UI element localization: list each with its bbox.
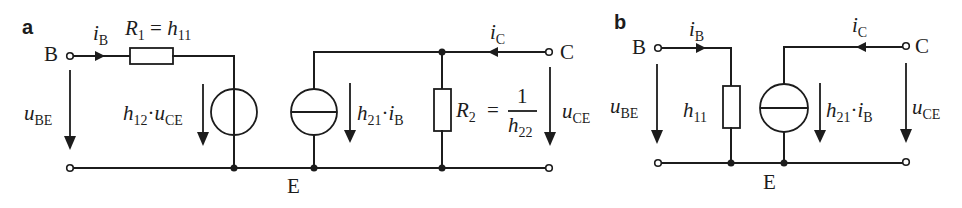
h21-ib-label: h21·iB [826, 100, 873, 121]
wire-collector-input [784, 47, 903, 84]
arrow-uce-icon [544, 132, 556, 146]
junction-dot [439, 165, 446, 172]
terminal-c-label: C [915, 36, 929, 57]
terminal-c [903, 43, 910, 50]
terminal-e-right [903, 159, 910, 166]
arrow-h21-icon [344, 130, 356, 143]
ib-subscript: B [863, 110, 872, 125]
r2-label: R2 [456, 100, 476, 121]
terminal-e-left [67, 165, 74, 172]
ib-subscript: B [99, 33, 108, 48]
r1-symbol: R [125, 16, 138, 40]
arrow-ib-icon [696, 43, 706, 53]
h11-subscript: 11 [178, 28, 191, 43]
terminal-b-label: B [632, 37, 646, 58]
terminal-c [546, 49, 553, 56]
r2-denominator: h22 [508, 115, 533, 136]
terminal-e-label: E [763, 172, 776, 193]
h11-subscript: 11 [694, 110, 707, 125]
h21-subscript: 21 [368, 113, 382, 128]
ube-subscript: BE [621, 106, 639, 121]
r1-subscript: 1 [138, 28, 145, 43]
resistor-r2 [434, 89, 451, 131]
ic-label: iC [490, 22, 505, 43]
ic-label: iC [852, 15, 867, 36]
r1-equation-label: R1 = h11 [125, 18, 191, 39]
arrow-h21-icon [814, 130, 826, 143]
uce-symbol: u [912, 95, 923, 119]
uce-label: uCE [912, 97, 940, 118]
wire-base-input [661, 48, 731, 86]
arrow-ib-icon [95, 51, 105, 61]
panel-a-label: a [22, 17, 33, 37]
terminal-b [67, 53, 74, 60]
junction-dot [439, 49, 446, 56]
terminal-b-label: B [44, 44, 58, 65]
ube-subscript: BE [35, 113, 53, 128]
terminal-e-label: E [287, 176, 300, 197]
arrow-h12-icon [197, 132, 209, 146]
h21-symbol: h [826, 98, 837, 122]
h-parameter-circuit-figure: a B iB R1 = h11 uBE h12·uCE h21·iB R2 = … [0, 0, 962, 208]
r1-equals: = [145, 16, 167, 40]
r2-subscript: 2 [469, 110, 476, 125]
h12-subscript: 12 [134, 113, 148, 128]
h21-subscript: 21 [837, 110, 851, 125]
r2-equals: = [487, 100, 499, 121]
ib-subscript: B [394, 113, 403, 128]
ib-symbol: i [93, 21, 99, 45]
ib-symbol: i [689, 17, 695, 41]
uce-subscript: CE [923, 107, 941, 122]
ube-symbol: u [610, 94, 621, 118]
h22-subscript: 22 [519, 125, 533, 140]
arrow-ic-icon [488, 47, 498, 57]
arrow-ube-icon [651, 130, 663, 144]
uce-symbol: u [562, 99, 573, 123]
ic-subscript: C [858, 25, 867, 40]
terminal-e-right [546, 165, 553, 172]
ic-symbol: i [490, 20, 496, 44]
h22-symbol: h [508, 113, 519, 137]
ube-label: uBE [24, 103, 52, 124]
uce-subscript: CE [573, 111, 591, 126]
ib-label: iB [689, 19, 704, 40]
multiply-dot: · [382, 101, 389, 125]
panel-b-label: b [614, 12, 626, 32]
ib-label: iB [93, 23, 108, 44]
uce-label: uCE [562, 101, 590, 122]
h11-symbol: h [167, 16, 178, 40]
multiply-dot: · [148, 101, 155, 125]
h21-ib-label: h21·iB [357, 103, 404, 124]
r2-symbol: R [456, 98, 469, 122]
h12-symbol: h [123, 101, 134, 125]
ube-label: uBE [610, 96, 638, 117]
junction-dot [728, 160, 735, 167]
terminal-e-left [655, 160, 662, 167]
h11-symbol: h [683, 98, 694, 122]
ic-symbol: i [852, 13, 858, 37]
arrow-ube-icon [64, 136, 76, 150]
junction-dot [311, 165, 318, 172]
arrow-uce-icon [900, 129, 912, 143]
multiply-dot: · [851, 98, 858, 122]
junction-dot [231, 165, 238, 172]
junction-dot [781, 160, 788, 167]
h11-label: h11 [683, 100, 707, 121]
resistor-h11 [723, 86, 740, 128]
terminal-b [655, 45, 662, 52]
h21-symbol: h [357, 101, 368, 125]
terminal-c-label: C [560, 42, 574, 63]
ic-subscript: C [496, 32, 505, 47]
ib-subscript: B [695, 29, 704, 44]
wire-top-to-isource [314, 52, 441, 89]
ube-symbol: u [24, 101, 35, 125]
uce-subscript: CE [165, 113, 183, 128]
uce-symbol: u [155, 101, 166, 125]
arrow-ic-icon [856, 42, 866, 52]
r2-numerator: 1 [517, 86, 528, 107]
resistor-r1 [130, 48, 173, 64]
h12-uce-label: h12·uCE [123, 103, 183, 124]
